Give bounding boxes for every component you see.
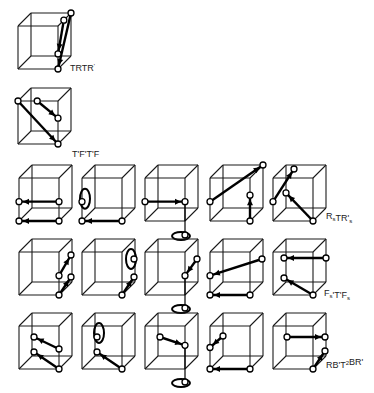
arrowhead xyxy=(247,199,253,205)
cube-edge xyxy=(273,239,286,252)
cube-edge xyxy=(59,313,72,326)
cube-edge xyxy=(19,313,32,326)
cubie-node xyxy=(207,366,213,372)
cube xyxy=(82,313,135,372)
sequence-label-1: TRTR' xyxy=(70,63,95,73)
cubie-node xyxy=(207,199,213,205)
cube-hidden-edge xyxy=(18,131,31,144)
cube xyxy=(273,239,329,298)
cubie-node xyxy=(34,98,40,104)
cube-hidden-edge xyxy=(273,282,286,295)
cubie-node xyxy=(247,218,253,224)
cubie-node xyxy=(259,256,265,262)
label-part: RB'T xyxy=(326,360,346,370)
label-part: s xyxy=(349,218,352,224)
cubie-node xyxy=(182,379,188,385)
cubie-node xyxy=(247,292,253,298)
cubie-node xyxy=(79,218,85,224)
cubie-node xyxy=(61,17,67,23)
cube-edge xyxy=(313,313,326,326)
cube-edge xyxy=(82,313,95,326)
cubie-node xyxy=(55,115,61,121)
cube xyxy=(145,313,198,387)
cubie-node xyxy=(194,256,200,262)
arrowhead xyxy=(175,199,181,205)
arrowhead xyxy=(23,199,29,205)
cube-move-diagram: TRTR' T'F'T'F RsTR's Fs'T'Fs RB'T2BR' xyxy=(0,0,374,393)
cube-hidden-edge xyxy=(145,356,158,369)
cube-edge xyxy=(19,165,32,178)
cubie-node xyxy=(16,199,22,205)
cubie-node xyxy=(283,190,289,196)
sequence-labels: TRTR' T'F'T'F RsTR's Fs'T'Fs RB'T2BR' xyxy=(70,63,364,370)
cube-hidden-edge xyxy=(273,208,286,221)
cubie-node xyxy=(55,141,61,147)
cubie-node xyxy=(310,218,316,224)
cube-edge xyxy=(59,239,72,252)
cube xyxy=(207,239,265,298)
cube-edge xyxy=(122,165,135,178)
cube-edge xyxy=(210,313,223,326)
cube xyxy=(207,313,263,372)
cubie-node xyxy=(182,273,188,279)
cube-edge xyxy=(313,165,326,178)
label-part: 'T'F xyxy=(333,290,348,300)
cubie-node xyxy=(56,199,62,205)
cube-edge xyxy=(145,239,158,252)
cube-edge xyxy=(313,239,326,252)
cube-edge xyxy=(185,356,198,369)
cubie-node xyxy=(157,334,163,340)
cube-hidden-edge xyxy=(19,282,32,295)
cubie-node xyxy=(31,334,37,340)
arrowhead xyxy=(315,334,321,340)
cube-hidden-edge xyxy=(273,356,286,369)
cubie-node xyxy=(281,255,287,261)
arrowhead xyxy=(175,339,182,345)
cube-edge xyxy=(145,165,158,178)
cubie-node xyxy=(182,232,188,238)
label-part: ' xyxy=(94,63,95,69)
cube-edge xyxy=(18,13,31,26)
cubie-node xyxy=(56,346,62,352)
cube-edge xyxy=(210,239,223,252)
cubie-node xyxy=(15,98,21,104)
cubie-node xyxy=(68,274,74,280)
label-part: s xyxy=(347,295,350,301)
sequence-label-2: T'F'T'F xyxy=(72,149,100,159)
cube xyxy=(207,162,266,224)
cube xyxy=(79,165,135,224)
cubie-node xyxy=(94,334,100,340)
cube-hidden-edge xyxy=(18,56,31,69)
cube-hidden-edge xyxy=(145,208,158,221)
cube xyxy=(142,165,198,240)
cubie-node xyxy=(247,192,253,198)
cubie-node xyxy=(131,256,137,262)
cubie-node xyxy=(55,51,61,57)
cubie-node xyxy=(182,342,188,348)
cubie-node xyxy=(322,334,328,340)
cube xyxy=(82,239,137,298)
cubie-node xyxy=(207,273,213,279)
cube-edge xyxy=(145,313,158,326)
cube-edge xyxy=(19,239,32,252)
cube xyxy=(270,165,326,224)
cube-edge xyxy=(250,239,263,252)
cubie-node xyxy=(56,366,62,372)
cube xyxy=(273,313,328,372)
move-arrow-line xyxy=(160,337,185,345)
cubie-node xyxy=(247,366,253,372)
cube xyxy=(145,239,200,313)
label-part: TRTR xyxy=(70,63,94,73)
cube-hidden-edge xyxy=(82,356,95,369)
cubie-node xyxy=(220,333,226,339)
sequence-label-4: Fs'T'Fs xyxy=(324,288,350,301)
cube-edge xyxy=(185,239,198,252)
arrowhead xyxy=(23,218,29,224)
label-part: BR' xyxy=(349,357,364,367)
cubie-node xyxy=(270,199,276,205)
cubie-node xyxy=(310,292,316,298)
cubie-node xyxy=(119,292,125,298)
cubie-node xyxy=(142,199,148,205)
cubie-node xyxy=(16,218,22,224)
cube-grid xyxy=(15,10,329,387)
